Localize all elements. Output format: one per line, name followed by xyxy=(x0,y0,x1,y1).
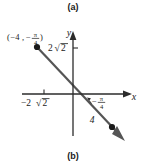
point-quadrant-4 xyxy=(109,124,115,130)
x-axis-label: x xyxy=(131,91,137,102)
x-tick-label: −2 √ 2 xyxy=(21,98,50,108)
point-label-theta-numerator: π xyxy=(34,31,38,38)
y-axis-label: y xyxy=(66,27,72,38)
y-tick-radical-sign: √ xyxy=(55,43,61,53)
panel-label-b: (b) xyxy=(0,151,146,161)
point-label-r: −4 xyxy=(11,32,21,42)
point-label-comma: , xyxy=(22,32,24,42)
angle-label-denominator: 4 xyxy=(100,103,104,110)
x-tick-radicand: 2 xyxy=(42,98,47,108)
y-tick-coefficient: 2 xyxy=(48,43,53,53)
coordinate-plot: x y 2 √ 2 −2 √ 2 ( −4 , − π 4 ) xyxy=(0,0,146,167)
x-tick-radical-sign: √ xyxy=(36,98,42,108)
polar-point-figure: (a) x y 2 xyxy=(0,0,146,167)
y-tick-radicand: 2 xyxy=(61,43,66,53)
point-label-close-paren: ) xyxy=(40,32,43,42)
x-axis-arrowhead xyxy=(123,91,132,98)
y-tick-label: 2 √ 2 xyxy=(48,43,68,53)
angle-label-numerator: π xyxy=(100,95,104,102)
angle-label-sign: − xyxy=(92,96,97,106)
x-tick-sign-and-coefficient: −2 xyxy=(21,98,31,108)
point-label-quadrant-2: ( −4 , − π 4 ) xyxy=(7,31,43,47)
point-label-theta-sign: − xyxy=(26,32,31,42)
segment-length-label: 4 xyxy=(90,115,95,125)
